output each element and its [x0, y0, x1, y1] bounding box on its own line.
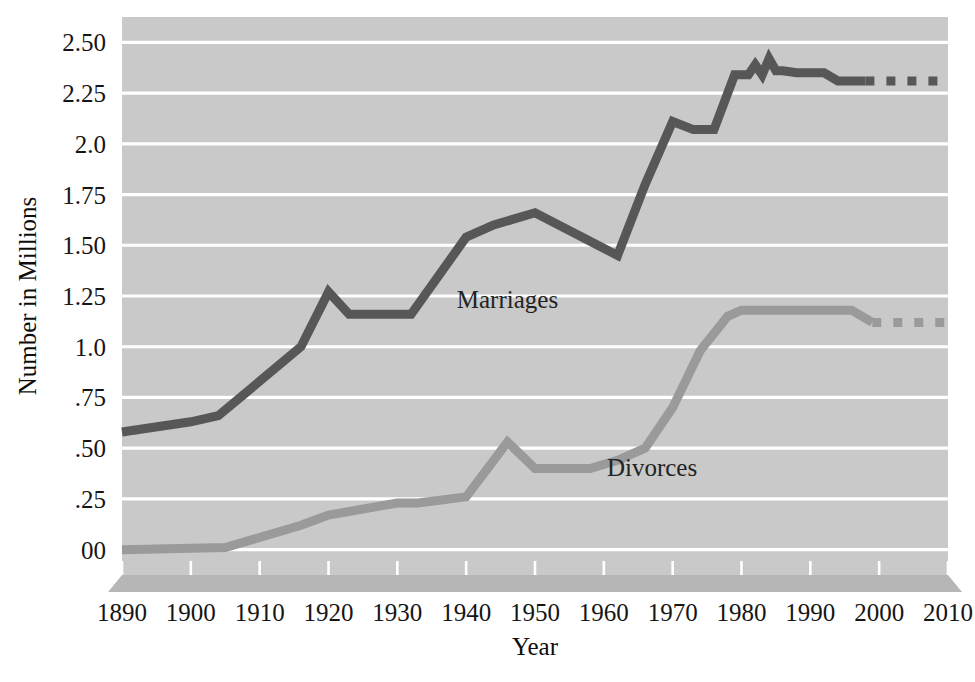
x-tick-label: 1890: [97, 599, 147, 626]
x-tick-label: 1940: [441, 599, 491, 626]
y-tick-label: 1.25: [62, 283, 106, 310]
y-tick-label: 1.0: [75, 334, 106, 361]
y-tick-label: 2.0: [75, 131, 106, 158]
x-tick-label: 2000: [854, 599, 904, 626]
y-tick-label: 2.25: [62, 80, 106, 107]
y-tick-label: 00: [81, 537, 106, 564]
y-tick-label: .75: [75, 384, 106, 411]
x-tick-label: 1960: [579, 599, 629, 626]
x-tick-label: 1910: [235, 599, 285, 626]
x-tick-label: 2010: [923, 599, 973, 626]
y-tick-label: 1.50: [62, 232, 106, 259]
y-axis-title: Number in Millions: [14, 197, 41, 396]
y-tick-label: 2.50: [62, 29, 106, 56]
x-tick-label: 1980: [717, 599, 767, 626]
x-tick-label: 1920: [304, 599, 354, 626]
y-axis-tick-labels: 2.502.252.01.751.501.251.0.75.50.2500: [62, 29, 106, 563]
line-chart: 2.502.252.01.751.501.251.0.75.50.2500 18…: [0, 0, 975, 682]
series-label-marriages: Marriages: [457, 286, 558, 313]
series-label-divorces: Divorces: [607, 454, 697, 481]
y-tick-label: .50: [75, 435, 106, 462]
x-tick-label: 1970: [648, 599, 698, 626]
x-tick-label: 1950: [510, 599, 560, 626]
x-tick-label: 1990: [785, 599, 835, 626]
axis-base-strip: [108, 575, 962, 595]
x-axis-tick-labels: 1890190019101920193019401950196019701980…: [97, 599, 973, 626]
x-axis-title: Year: [512, 633, 559, 660]
y-tick-label: .25: [75, 486, 106, 513]
x-tick-label: 1930: [372, 599, 422, 626]
chart-container: 2.502.252.01.751.501.251.0.75.50.2500 18…: [0, 0, 975, 682]
y-tick-label: 1.75: [62, 182, 106, 209]
x-tick-label: 1900: [166, 599, 216, 626]
